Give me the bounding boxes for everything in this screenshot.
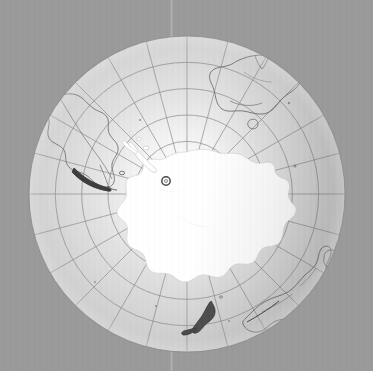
orthographic-globe[interactable] bbox=[0, 0, 373, 371]
globe-disc bbox=[29, 36, 345, 352]
globe-viewport[interactable] bbox=[0, 0, 373, 371]
limb-halo bbox=[29, 36, 345, 352]
